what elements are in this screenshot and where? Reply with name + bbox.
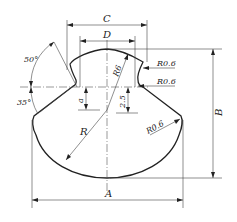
- dim-R0.6-upper: R0.6: [156, 59, 176, 68]
- dim-2.5: 2.5: [118, 95, 127, 109]
- dim-C: C: [103, 13, 111, 24]
- dim-A: A: [104, 188, 112, 199]
- technical-drawing: C D B A R6 R0.6 R0.6 R0.6 R a 2.5: [0, 0, 237, 222]
- dim-R6: R6: [111, 64, 124, 78]
- angle-50: 50°: [24, 55, 38, 64]
- part-outline: [33, 49, 182, 178]
- dim-B: B: [213, 109, 224, 117]
- dim-a: a: [76, 98, 85, 103]
- dim-R0.6-lower: R0.6: [156, 77, 176, 86]
- dim-R: R: [79, 126, 88, 137]
- dim-R0.6-side: R0.6: [144, 119, 166, 136]
- dim-D: D: [102, 29, 111, 40]
- angle-35: 35°: [17, 98, 31, 107]
